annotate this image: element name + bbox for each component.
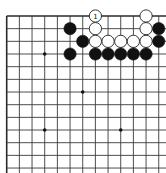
black-stone[interactable] (153, 35, 165, 47)
black-stone[interactable] (64, 48, 76, 60)
white-stone[interactable]: 1 (89, 10, 101, 22)
stones-layer: 1 (64, 10, 165, 60)
go-board[interactable]: 1 (0, 0, 166, 173)
black-stone[interactable] (89, 48, 101, 60)
black-stone[interactable] (140, 48, 152, 60)
black-stone[interactable] (77, 35, 89, 47)
white-stone[interactable] (102, 35, 114, 47)
white-stone[interactable] (127, 35, 139, 47)
black-stone[interactable] (127, 48, 139, 60)
star-point (81, 90, 85, 94)
black-stone[interactable] (115, 48, 127, 60)
white-stone[interactable] (115, 35, 127, 47)
star-point (43, 128, 47, 132)
star-point (119, 128, 123, 132)
white-stone[interactable] (140, 23, 152, 35)
move-number-label: 1 (93, 13, 97, 21)
black-stone[interactable] (153, 23, 165, 35)
white-stone[interactable] (140, 10, 152, 22)
black-stone[interactable] (64, 23, 76, 35)
star-point (43, 52, 47, 56)
white-stone[interactable] (140, 35, 152, 47)
white-stone[interactable] (89, 35, 101, 47)
white-stone[interactable] (89, 23, 101, 35)
black-stone[interactable] (102, 48, 114, 60)
